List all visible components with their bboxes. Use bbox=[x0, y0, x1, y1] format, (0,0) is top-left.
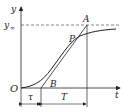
point-p-label: P bbox=[68, 34, 76, 44]
T-label: T bbox=[61, 92, 68, 102]
x-axis-label: t bbox=[115, 90, 119, 100]
tau-label: τ bbox=[28, 92, 34, 102]
y-inf-sub: ∞ bbox=[10, 24, 15, 31]
step-response-diagram: y y ∞ A P B O t τ T bbox=[0, 0, 131, 112]
point-b-label: B bbox=[49, 79, 57, 89]
tangent-line bbox=[41, 25, 87, 88]
origin-label: O bbox=[10, 83, 18, 94]
point-a-label: A bbox=[82, 14, 90, 24]
y-inf-label: y bbox=[3, 20, 10, 30]
y-axis-label: y bbox=[10, 4, 17, 14]
